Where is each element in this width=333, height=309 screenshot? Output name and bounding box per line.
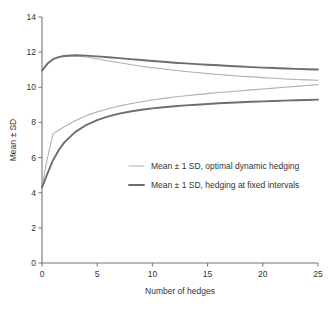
series-line-optimal_dynamic-lower bbox=[42, 85, 318, 187]
x-tick-label: 25 bbox=[313, 269, 323, 279]
y-tick-label: 2 bbox=[31, 223, 36, 233]
x-tick-label: 15 bbox=[203, 269, 213, 279]
legend-label-0: Mean ± 1 SD, optimal dynamic hedging bbox=[151, 161, 300, 171]
series-line-fixed_intervals-upper bbox=[42, 55, 318, 70]
y-tick-label: 8 bbox=[31, 117, 36, 127]
series-line-fixed_intervals-lower bbox=[42, 100, 318, 188]
y-tick-label: 0 bbox=[31, 258, 36, 268]
chart-container: 024681012140510152025Number of hedgesMea… bbox=[0, 0, 333, 309]
line-chart: 024681012140510152025Number of hedgesMea… bbox=[0, 0, 333, 309]
x-tick-label: 10 bbox=[148, 269, 158, 279]
legend-label-1: Mean ± 1 SD, hedging at fixed intervals bbox=[151, 180, 299, 190]
y-tick-label: 6 bbox=[31, 153, 36, 163]
y-axis-title: Mean ± SD bbox=[8, 119, 18, 161]
x-tick-label: 20 bbox=[258, 269, 268, 279]
x-tick-label: 0 bbox=[40, 269, 45, 279]
x-axis-title: Number of hedges bbox=[145, 286, 215, 296]
x-tick-label: 5 bbox=[95, 269, 100, 279]
y-tick-label: 14 bbox=[27, 12, 37, 22]
y-tick-label: 12 bbox=[27, 47, 37, 57]
y-tick-label: 4 bbox=[31, 188, 36, 198]
y-tick-label: 10 bbox=[27, 82, 37, 92]
